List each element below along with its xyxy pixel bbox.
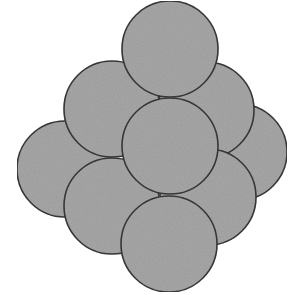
- circle-bottom: [121, 196, 217, 292]
- circle-center: [122, 98, 218, 194]
- diagram-canvas: [0, 0, 296, 295]
- circle-top: [122, 1, 218, 97]
- circle-cluster-diagram: [0, 0, 296, 295]
